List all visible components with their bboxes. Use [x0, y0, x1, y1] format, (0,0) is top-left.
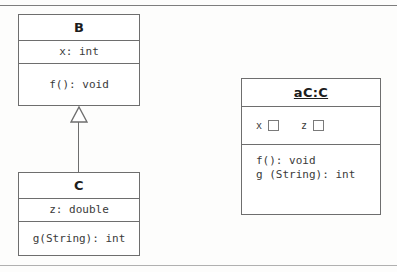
object-box-ac[interactable]: aC:C x z f(): void g (String): int	[241, 78, 381, 215]
object-ac-slot-x-value[interactable]	[268, 120, 279, 131]
class-box-c[interactable]: C z: double g(String): int	[18, 172, 140, 256]
class-c-operation-g: g(String): int	[33, 232, 126, 246]
object-ac-slot-z-value[interactable]	[313, 120, 324, 131]
object-ac-slot-x-label: x	[256, 120, 262, 131]
class-b-attribute-x: x: int	[59, 45, 99, 59]
object-ac-slot-x[interactable]: x	[256, 120, 279, 131]
object-ac-name: aC:C	[294, 85, 328, 100]
class-c-attribute-compartment: z: double	[19, 198, 139, 221]
class-c-operation-compartment: g(String): int	[19, 221, 139, 255]
uml-class-diagram-canvas: B x: int f(): void C z: double g(String)…	[0, 0, 397, 272]
object-ac-slot-compartment: x z	[242, 106, 380, 144]
page-rule-bottom	[0, 265, 397, 266]
object-ac-operations: f(): void g (String): int	[256, 154, 355, 182]
object-ac-slot-z-label: z	[301, 120, 307, 131]
class-b-operation-compartment: f(): void	[19, 63, 139, 105]
object-ac-name-compartment: aC:C	[242, 79, 380, 106]
page-rule-top	[0, 5, 397, 6]
class-box-b[interactable]: B x: int f(): void	[18, 14, 140, 106]
class-b-operation-f: f(): void	[49, 78, 109, 92]
generalization-line	[78, 122, 79, 172]
object-ac-operation-compartment: f(): void g (String): int	[242, 144, 380, 214]
class-b-attribute-compartment: x: int	[19, 40, 139, 63]
object-ac-slot-row: x z	[256, 120, 324, 131]
generalization-connector-c-to-b[interactable]	[70, 106, 88, 172]
object-ac-slot-z[interactable]: z	[301, 120, 324, 131]
class-c-name: C	[74, 178, 84, 193]
class-c-name-compartment: C	[19, 173, 139, 198]
class-b-name: B	[74, 20, 84, 35]
class-b-name-compartment: B	[19, 15, 139, 40]
hollow-triangle-icon	[70, 106, 88, 123]
class-c-attribute-z: z: double	[49, 203, 109, 217]
